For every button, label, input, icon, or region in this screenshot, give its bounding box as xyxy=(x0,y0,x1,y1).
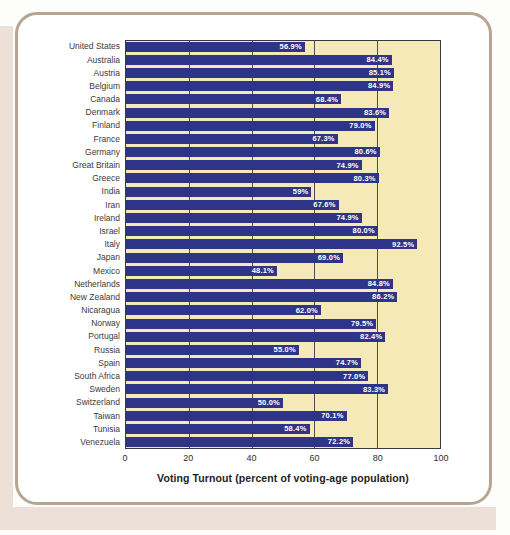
bar-track: 80.3% xyxy=(125,172,441,185)
bar-track: 92.5% xyxy=(125,238,441,251)
bar: 84.8% xyxy=(125,279,393,289)
x-tick-label: 0 xyxy=(122,454,127,463)
bar-row: Ireland74.9% xyxy=(18,211,441,224)
bar-track: 80.0% xyxy=(125,225,441,238)
bar-track: 79.5% xyxy=(125,317,441,330)
x-tick-label: 100 xyxy=(433,454,448,463)
bar-value-label: 92.5% xyxy=(392,241,417,249)
bar-row: Israel80.0% xyxy=(18,225,441,238)
country-label: Israel xyxy=(18,227,125,236)
bar: 80.3% xyxy=(125,173,379,183)
x-tick-label: 60 xyxy=(310,454,320,463)
bar-row: Canada68.4% xyxy=(18,93,441,106)
bar-value-label: 69.0% xyxy=(318,254,343,262)
bar-row: Greece80.3% xyxy=(18,172,441,185)
bar-row: Taiwan70.1% xyxy=(18,409,441,422)
country-label: New Zealand xyxy=(18,293,125,302)
bar-value-label: 67.6% xyxy=(313,201,338,209)
bar-row: United States56.9% xyxy=(18,40,441,53)
country-label: Germany xyxy=(18,148,125,157)
bar-value-label: 50.0% xyxy=(258,399,283,407)
bar-value-label: 83.6% xyxy=(364,109,389,117)
bar: 48.1% xyxy=(125,266,277,276)
bar: 84.9% xyxy=(125,81,393,91)
country-label: Tunisia xyxy=(18,425,125,434)
page-edge-bottom xyxy=(0,507,496,530)
bar-chart: United States56.9%Australia84.4%Austria8… xyxy=(18,15,489,502)
bar-track: 84.9% xyxy=(125,80,441,93)
bar-row: Japan69.0% xyxy=(18,251,441,264)
bar-value-label: 84.4% xyxy=(366,56,391,64)
bar-track: 59% xyxy=(125,185,441,198)
bar-row: Italy92.5% xyxy=(18,238,441,251)
bar-track: 67.6% xyxy=(125,198,441,211)
bar-row: Australia84.4% xyxy=(18,53,441,66)
bar: 86.2% xyxy=(125,292,397,302)
bar: 72.2% xyxy=(125,437,353,447)
bar-value-label: 84.9% xyxy=(368,82,393,90)
bar-track: 72.2% xyxy=(125,436,441,449)
bar-track: 68.4% xyxy=(125,93,441,106)
bar-row: Finland79.0% xyxy=(18,119,441,132)
bar: 83.3% xyxy=(125,384,388,394)
bar-value-label: 79.5% xyxy=(351,320,376,328)
country-label: Australia xyxy=(18,56,125,65)
bar-value-label: 48.1% xyxy=(252,267,277,275)
country-label: Japan xyxy=(18,253,125,262)
page-edge-left xyxy=(0,26,13,530)
bar-value-label: 80.3% xyxy=(353,175,378,183)
bar-track: 84.8% xyxy=(125,277,441,290)
x-tick-label: 20 xyxy=(183,454,193,463)
bar: 83.6% xyxy=(125,108,389,118)
bar-row: Switzerland50.0% xyxy=(18,396,441,409)
bar-track: 80.6% xyxy=(125,146,441,159)
country-label: Venezuela xyxy=(18,438,125,447)
bar-value-label: 80.6% xyxy=(354,148,379,156)
bar-value-label: 77.0% xyxy=(343,373,368,381)
bar: 67.6% xyxy=(125,200,339,210)
bar-value-label: 62.0% xyxy=(296,307,321,315)
country-label: Norway xyxy=(18,319,125,328)
bar-track: 83.6% xyxy=(125,106,441,119)
bar-value-label: 83.3% xyxy=(363,386,388,394)
country-label: Italy xyxy=(18,240,125,249)
bar-row: Mexico48.1% xyxy=(18,264,441,277)
bar-value-label: 74.9% xyxy=(336,214,361,222)
bar-row: Portugal82.4% xyxy=(18,330,441,343)
bar: 67.3% xyxy=(125,134,338,144)
bar-row: Nicaragua62.0% xyxy=(18,304,441,317)
bar: 79.0% xyxy=(125,121,375,131)
bar-track: 67.3% xyxy=(125,132,441,145)
bar-track: 84.4% xyxy=(125,53,441,66)
country-label: Spain xyxy=(18,359,125,368)
bar-row: Russia55.0% xyxy=(18,343,441,356)
bar-row: Norway79.5% xyxy=(18,317,441,330)
country-label: Canada xyxy=(18,95,125,104)
bar-row: Denmark83.6% xyxy=(18,106,441,119)
bar: 70.1% xyxy=(125,411,347,421)
bar: 59% xyxy=(125,187,311,197)
bar-value-label: 85.1% xyxy=(369,69,394,77)
x-axis-title: Voting Turnout (percent of voting-age po… xyxy=(125,472,441,484)
country-label: Portugal xyxy=(18,332,125,341)
bar-track: 86.2% xyxy=(125,291,441,304)
country-label: Sweden xyxy=(18,385,125,394)
bar: 69.0% xyxy=(125,253,343,263)
bar: 84.4% xyxy=(125,55,392,65)
bar-track: 62.0% xyxy=(125,304,441,317)
bar: 79.5% xyxy=(125,319,376,329)
bar-row: Sweden83.3% xyxy=(18,383,441,396)
bar-track: 82.4% xyxy=(125,330,441,343)
bar-value-label: 55.0% xyxy=(274,346,299,354)
bar-row: Spain74.7% xyxy=(18,357,441,370)
bar-track: 70.1% xyxy=(125,409,441,422)
bar-row: Netherlands84.8% xyxy=(18,277,441,290)
bar-track: 50.0% xyxy=(125,396,441,409)
x-axis-ticks: 020406080100 xyxy=(125,454,441,466)
bar-value-label: 86.2% xyxy=(372,293,397,301)
bar-row: Austria85.1% xyxy=(18,66,441,79)
bar: 58.4% xyxy=(125,424,310,434)
bar-track: 79.0% xyxy=(125,119,441,132)
bar: 92.5% xyxy=(125,239,417,249)
bar-track: 74.9% xyxy=(125,211,441,224)
